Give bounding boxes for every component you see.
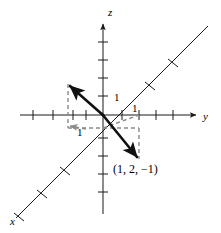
z-axis-label: z: [107, 6, 113, 18]
vector-down-right: [102, 114, 137, 157]
z-axis-tick-label-one: 1: [114, 91, 120, 103]
z-axis-group: z: [98, 6, 113, 214]
axes-svg: x y: [0, 0, 221, 233]
x-axis-label: x: [9, 215, 15, 227]
x-axis-ticks: [14, 59, 178, 221]
y-axis-label: y: [202, 110, 208, 122]
x-axis-tick-label-one: 1: [77, 126, 83, 138]
vector-up-left: [70, 86, 104, 116]
x-axis-line: [16, 26, 208, 218]
y-axis-tick-label-one: 1: [132, 102, 138, 114]
coordinate-diagram: x y: [0, 0, 221, 233]
coordinate-point-label: (1, 2, −1): [113, 162, 158, 176]
x-axis-group: x: [9, 26, 208, 227]
